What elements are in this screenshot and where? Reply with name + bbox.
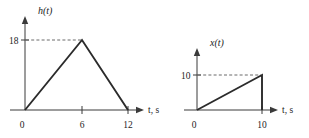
left-ytick-label-18: 18 (9, 36, 19, 46)
right-xtick-label-0: 0 (192, 120, 197, 130)
two-plot-figure: h(t) t, s 18 0 6 12 x(t) t, s 10 0 10 (0, 0, 309, 138)
right-y-axis-label: x(t) (209, 37, 225, 49)
left-plot-ticks (21, 40, 128, 114)
left-y-axis-label: h(t) (38, 5, 53, 17)
left-y-axis-arrowhead (22, 16, 28, 24)
right-y-axis-arrowhead (194, 48, 200, 56)
right-curve-x-of-t (197, 75, 262, 110)
left-x-axis-arrowhead (136, 107, 144, 113)
left-x-axis-label: t, s (148, 105, 159, 115)
left-xtick-label-6: 6 (80, 120, 85, 130)
right-x-axis-arrowhead (270, 107, 278, 113)
right-xtick-label-10: 10 (257, 120, 267, 130)
left-xtick-label-0: 0 (20, 120, 25, 130)
left-xtick-label-12: 12 (123, 120, 133, 130)
left-curve-h-of-t (25, 40, 128, 110)
left-plot-axes (10, 16, 144, 113)
right-plot-axes (184, 48, 278, 113)
right-ytick-label-10: 10 (181, 71, 191, 81)
left-plot-triangular-pulse: h(t) t, s 18 0 6 12 x(t) t, s 10 0 10 (0, 0, 309, 138)
right-x-axis-label: t, s (282, 105, 293, 115)
